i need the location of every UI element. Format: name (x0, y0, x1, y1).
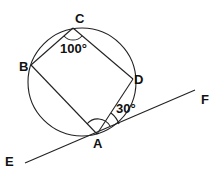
label-e: E (5, 154, 14, 169)
angle-label-c: 100° (60, 41, 87, 56)
angle-label-daf: 30° (116, 101, 136, 116)
geometry-diagram: C B D A E F 100° 30° (0, 0, 222, 178)
label-f: F (201, 92, 209, 107)
angle-arc-c (64, 36, 82, 40)
label-d: D (134, 72, 143, 87)
label-b: B (19, 59, 28, 74)
label-a: A (93, 136, 103, 151)
label-c: C (75, 11, 85, 26)
